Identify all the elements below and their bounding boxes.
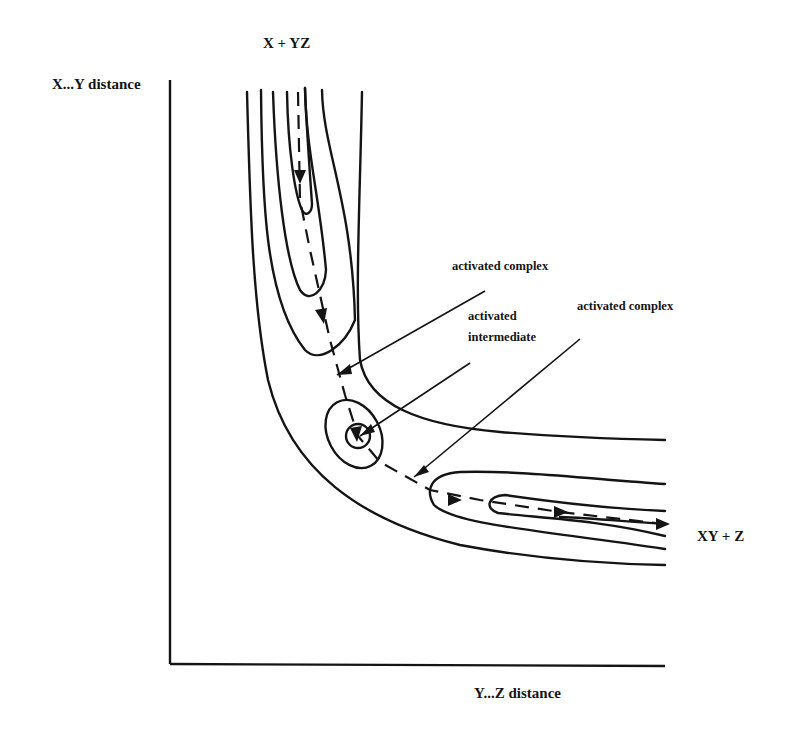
x-axis-label: Y...Z distance <box>474 685 561 701</box>
reactant-label: X + YZ <box>263 35 310 51</box>
contour-product-2 <box>490 495 665 536</box>
label-activated-intermediate: activated intermediate <box>468 309 536 344</box>
pointer-head-1 <box>337 364 352 375</box>
y-axis-label: X...Y distance <box>52 76 141 92</box>
product-label: XY + Z <box>697 528 744 544</box>
pointer-activated-complex-2 <box>414 339 580 477</box>
label-activated-complex-2: activated complex <box>577 299 674 313</box>
path-arrow-6 <box>656 518 670 530</box>
path-arrow-1 <box>294 170 306 184</box>
potential-energy-diagram: X...Y distance Y...Z distance X + YZ XY … <box>0 0 794 738</box>
x-axis <box>170 664 665 666</box>
label-activated-complex-1: activated complex <box>452 259 549 273</box>
